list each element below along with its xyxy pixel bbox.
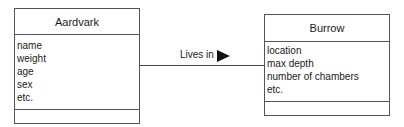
class-title: Aardvark [55, 16, 99, 28]
association-label: Lives in [180, 49, 214, 60]
attribute: weight [17, 52, 137, 65]
attribute: name [17, 39, 137, 52]
attribute: age [17, 65, 137, 78]
association-line [140, 65, 264, 66]
attribute: etc. [267, 83, 387, 96]
class-name: Burrow [265, 15, 389, 42]
class-attributes: name weight age sex etc. [15, 35, 139, 110]
attribute: etc. [17, 91, 137, 104]
class-attributes: location max depth number of chambers et… [265, 42, 389, 102]
attribute: number of chambers [267, 70, 387, 83]
direction-arrow-icon [217, 50, 230, 62]
class-aardvark: Aardvark name weight age sex etc. [14, 8, 140, 124]
attribute: max depth [267, 57, 387, 70]
attribute: location [267, 44, 387, 57]
class-name: Aardvark [15, 9, 139, 35]
attribute: sex [17, 78, 137, 91]
class-burrow: Burrow location max depth number of cham… [264, 14, 390, 116]
class-title: Burrow [310, 22, 345, 34]
